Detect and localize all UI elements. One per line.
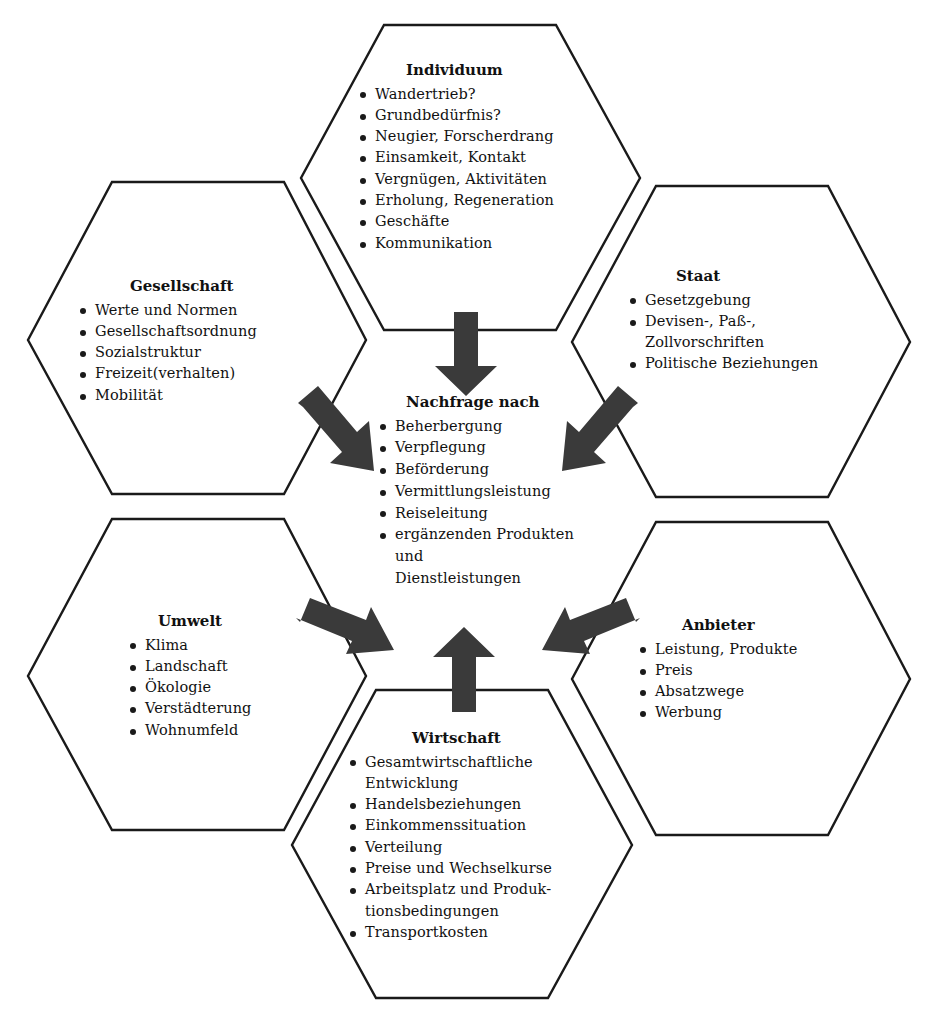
node-gesellschaft: Gesellschaft Werte und Normen Gesellscha… (78, 278, 363, 406)
list-item: Transportkosten (348, 922, 608, 943)
arrow-individuum-to-center (435, 312, 497, 396)
list-item: Ökologie (128, 677, 378, 698)
list-item-continuation: Zollvorschriften (628, 332, 918, 353)
list-item: Einsamkeit, Kontakt (358, 147, 648, 168)
list-item: Leistung, Produkte (638, 639, 908, 660)
list-item-continuation: Dienstleistungen (378, 568, 618, 590)
arrow-wirtschaft-to-center (433, 627, 495, 712)
list-item: Absatzwege (638, 681, 908, 702)
list-item: Wandertrieb? (358, 84, 648, 105)
list-item: Preis (638, 660, 908, 681)
center-list: Beherbergung Verpflegung Beförderung Ver… (378, 416, 618, 590)
node-title-umwelt: Umwelt (128, 613, 378, 630)
list-item: Beförderung (378, 459, 618, 481)
list-item: Mobilität (78, 385, 363, 406)
node-umwelt: Umwelt Klima Landschaft Ökologie Verstäd… (128, 613, 378, 741)
list-item: Erholung, Regeneration (358, 190, 648, 211)
list-item: Werte und Normen (78, 300, 363, 321)
list-item: Grundbedürfnis? (358, 105, 648, 126)
list-item: Gesellschaftsordnung (78, 321, 363, 342)
list-item: Kommunikation (358, 233, 648, 254)
list-item-continuation: tionsbedingungen (348, 901, 608, 922)
node-list-individuum: Wandertrieb? Grundbedürfnis? Neugier, Fo… (358, 84, 648, 255)
node-title-staat: Staat (628, 268, 918, 285)
node-center-demand: Nachfrage nach Beherbergung Verpflegung … (378, 394, 618, 590)
list-item: Werbung (638, 702, 908, 723)
diagram-canvas: Individuum Wandertrieb? Grundbedürfnis? … (0, 0, 936, 1024)
list-item-continuation: Entwicklung (348, 773, 608, 794)
node-title-anbieter: Anbieter (638, 617, 908, 634)
list-item: Neugier, Forscherdrang (358, 126, 648, 147)
list-item: Vermittlungsleistung (378, 481, 618, 503)
list-item: Einkommenssituation (348, 815, 608, 836)
node-list-staat: Gesetzgebung Devisen-, Paß-, Zollvorschr… (628, 290, 918, 375)
list-item: Wohnumfeld (128, 720, 378, 741)
list-item: Landschaft (128, 656, 378, 677)
node-list-wirtschaft: Gesamtwirtschaftliche Entwicklung Handel… (348, 752, 608, 944)
list-item: Handelsbeziehungen (348, 794, 608, 815)
list-item: Verpflegung (378, 437, 618, 459)
list-item: Arbeitsplatz und Produk- (348, 879, 608, 900)
list-item: Verstädterung (128, 698, 378, 719)
list-item: Reiseleitung (378, 503, 618, 525)
list-item: Politische Beziehungen (628, 353, 918, 374)
node-title-gesellschaft: Gesellschaft (78, 278, 363, 295)
list-item: Vergnügen, Aktivitäten (358, 169, 648, 190)
list-item: Geschäfte (358, 211, 648, 232)
list-item: Preise und Wechselkurse (348, 858, 608, 879)
node-title-individuum: Individuum (358, 62, 648, 79)
list-item: Freizeit(verhalten) (78, 363, 363, 384)
center-title: Nachfrage nach (378, 394, 618, 411)
list-item: Devisen-, Paß-, (628, 311, 918, 332)
node-title-wirtschaft: Wirtschaft (348, 730, 608, 747)
list-item-continuation: und (378, 546, 618, 568)
list-item: Beherbergung (378, 416, 618, 438)
list-item: Sozialstruktur (78, 342, 363, 363)
list-item: Gesamtwirtschaftliche (348, 752, 608, 773)
node-anbieter: Anbieter Leistung, Produkte Preis Absatz… (638, 617, 908, 724)
node-staat: Staat Gesetzgebung Devisen-, Paß-, Zollv… (628, 268, 918, 375)
node-list-gesellschaft: Werte und Normen Gesellschaftsordnung So… (78, 300, 363, 407)
node-list-anbieter: Leistung, Produkte Preis Absatzwege Werb… (638, 639, 908, 724)
list-item: Verteilung (348, 837, 608, 858)
node-individuum: Individuum Wandertrieb? Grundbedürfnis? … (358, 62, 648, 254)
node-wirtschaft: Wirtschaft Gesamtwirtschaftliche Entwick… (348, 730, 608, 943)
node-list-umwelt: Klima Landschaft Ökologie Verstädterung … (128, 635, 378, 742)
list-item: Gesetzgebung (628, 290, 918, 311)
list-item: Klima (128, 635, 378, 656)
list-item: ergänzenden Produkten (378, 524, 618, 546)
